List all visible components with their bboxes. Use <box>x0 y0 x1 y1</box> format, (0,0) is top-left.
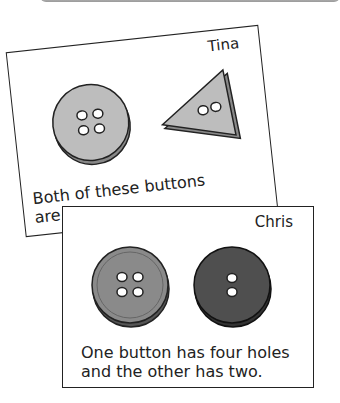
two-hole-triangle-button-icon <box>154 58 253 157</box>
two-hole-round-button-icon <box>191 243 275 333</box>
chris-card: Chris One button has four holes and the … <box>62 206 314 388</box>
card-caption: One button has four holes and the other … <box>81 343 290 381</box>
caption-line: and the other has two. <box>81 362 290 381</box>
top-banner-edge <box>40 0 340 2</box>
four-hole-round-button-icon <box>42 74 141 173</box>
card-author-name: Tina <box>207 34 240 55</box>
four-hole-round-button-icon <box>89 243 173 333</box>
caption-line: One button has four holes <box>81 343 290 362</box>
card-author-name: Chris <box>255 213 293 231</box>
